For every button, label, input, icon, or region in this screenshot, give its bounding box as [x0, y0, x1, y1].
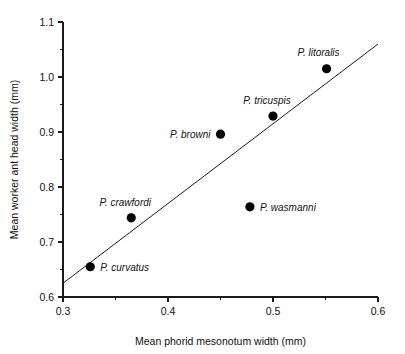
y-axis-ticks [58, 22, 63, 297]
data-point-label: P. tricuspis [243, 95, 291, 106]
y-tick-label: 1.1 [39, 16, 54, 28]
y-tick-label: 0.9 [39, 126, 54, 138]
data-point-marker [127, 213, 136, 222]
data-point-marker [216, 130, 225, 139]
y-tick-label: 0.6 [39, 291, 54, 303]
data-point-marker [86, 262, 95, 271]
x-tick-label: 0.3 [56, 305, 71, 317]
x-axis-title: Mean phorid mesonotum width (mm) [135, 335, 306, 347]
x-tick-label: 0.5 [266, 305, 281, 317]
data-point-label: P. wasmanni [260, 202, 317, 213]
data-point-label: P. curvatus [100, 262, 149, 273]
data-point-labels: P. curvatusP. crawfordiP. wasmanniP. bro… [99, 47, 339, 273]
y-tick-label: 1.0 [39, 71, 54, 83]
data-point-marker [322, 64, 331, 73]
data-point-marker [245, 202, 254, 211]
data-point-marker [268, 111, 277, 120]
plot-canvas: 0.60.70.80.91.01.1 0.30.40.50.6 P. curva… [0, 0, 405, 354]
data-points [86, 64, 331, 271]
y-tick-label: 0.8 [39, 181, 54, 193]
x-tick-label: 0.6 [371, 305, 386, 317]
data-point-label: P. browni [170, 129, 211, 140]
x-tick-label: 0.4 [161, 305, 176, 317]
data-point-label: P. crawfordi [99, 197, 151, 208]
y-axis-title: Mean worker ant head width (mm) [8, 80, 20, 239]
x-axis-tick-labels: 0.30.40.50.6 [56, 305, 386, 317]
x-axis-ticks [63, 297, 378, 302]
data-point-label: P. litoralis [298, 47, 340, 58]
axes [63, 22, 378, 297]
regression-line [63, 44, 378, 283]
y-axis-tick-labels: 0.60.70.80.91.01.1 [39, 16, 54, 303]
scatter-plot-figure: 0.60.70.80.91.01.1 0.30.40.50.6 P. curva… [0, 0, 405, 354]
y-tick-label: 0.7 [39, 236, 54, 248]
